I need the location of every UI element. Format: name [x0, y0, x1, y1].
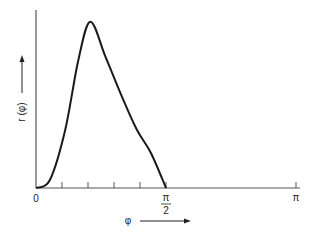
x-tick-label-half-pi-numerator: π [163, 192, 170, 203]
x-ticks [62, 182, 296, 188]
y-axis-label: r (φ) [16, 102, 27, 121]
x-tick-label-pi: π [293, 192, 300, 203]
x-axis-arrowhead [184, 219, 191, 224]
x-axis-label: φ [125, 215, 132, 226]
series-line-r-phi [36, 22, 166, 188]
chart: 0 π 2 π φ r (φ) [0, 0, 315, 235]
x-tick-label-0: 0 [33, 193, 39, 204]
x-tick-label-half-pi-denominator: 2 [163, 205, 169, 216]
y-axis-arrowhead [20, 55, 25, 62]
